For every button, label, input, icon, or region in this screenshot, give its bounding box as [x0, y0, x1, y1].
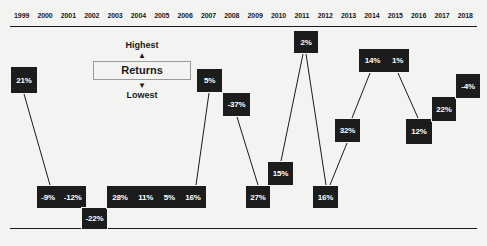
year-label: 2000	[33, 12, 56, 19]
year-label: 2008	[220, 12, 243, 19]
legend-highest-label: Highest	[93, 40, 191, 51]
value-box: -37%	[222, 92, 251, 117]
connector-line	[306, 54, 326, 185]
legend-lowest-label: Lowest	[93, 90, 191, 101]
year-label: 1999	[10, 12, 33, 19]
year-label: 2013	[337, 12, 360, 19]
legend-title: Returns	[93, 61, 191, 80]
value-label: 16%	[317, 193, 334, 202]
value-label: 27%	[249, 193, 266, 202]
value-label: -22%	[85, 214, 105, 223]
value-box: 15%	[267, 161, 294, 186]
connector-line	[281, 54, 303, 161]
value-box: 12%	[405, 118, 433, 145]
value-box: 22%	[431, 96, 457, 122]
value-box: 5%	[196, 68, 223, 93]
year-label: 2016	[407, 12, 430, 19]
year-label: 2003	[103, 12, 126, 19]
connector-line	[237, 117, 258, 185]
year-label: 2010	[267, 12, 290, 19]
value-label: -4%	[460, 82, 476, 91]
value-label: 12%	[410, 127, 427, 136]
year-label: 2001	[57, 12, 80, 19]
connector-line	[330, 143, 347, 185]
year-label: 2012	[314, 12, 337, 19]
down-arrow-icon: ▼	[93, 81, 191, 90]
value-box: -9%-12%	[36, 185, 87, 209]
year-label: 2017	[430, 12, 453, 19]
year-label: 2014	[360, 12, 383, 19]
value-box: 21%	[10, 66, 38, 94]
value-label: 11%	[137, 193, 154, 202]
value-label: 2%	[299, 38, 312, 47]
year-label: 2002	[80, 12, 103, 19]
value-label: 21%	[15, 76, 32, 85]
value-box: 14%1%	[358, 48, 410, 73]
value-label: 22%	[435, 105, 452, 114]
returns-legend: Highest ▲ Returns ▼ Lowest	[93, 40, 191, 101]
connector-line	[352, 73, 370, 118]
value-label: -12%	[63, 193, 83, 202]
year-label: 2006	[173, 12, 196, 19]
value-box: -22%	[81, 207, 108, 230]
value-label: 15%	[272, 169, 289, 178]
year-label: 2018	[454, 12, 477, 19]
year-label: 2005	[150, 12, 173, 19]
value-label: 16%	[184, 193, 201, 202]
value-label: 32%	[339, 126, 356, 135]
value-label: -9%	[40, 193, 56, 202]
value-label: -37%	[227, 100, 247, 109]
value-box: 27%	[245, 185, 271, 209]
value-label: 14%	[364, 56, 381, 65]
year-label: 2015	[384, 12, 407, 19]
connector-line	[196, 93, 209, 185]
value-label: 1%	[391, 56, 404, 65]
value-box: 32%	[334, 118, 361, 143]
value-box: 16%	[312, 185, 339, 209]
year-label: 2007	[197, 12, 220, 19]
value-box: -4%	[455, 73, 481, 99]
value-label: 5%	[203, 76, 216, 85]
returns-chart: 1999200020012002200320042005200620072008…	[0, 0, 487, 246]
year-label: 2011	[290, 12, 313, 19]
value-box: 2%	[293, 30, 319, 54]
value-label: 28%	[111, 193, 128, 202]
value-label: 5%	[163, 193, 176, 202]
connector-line	[24, 94, 50, 185]
year-label: 2004	[127, 12, 150, 19]
value-box: 28%11%5%16%	[106, 185, 207, 209]
top-axis-line	[10, 26, 477, 27]
year-label: 2009	[244, 12, 267, 19]
connector-line	[398, 73, 418, 118]
up-arrow-icon: ▲	[93, 51, 191, 60]
